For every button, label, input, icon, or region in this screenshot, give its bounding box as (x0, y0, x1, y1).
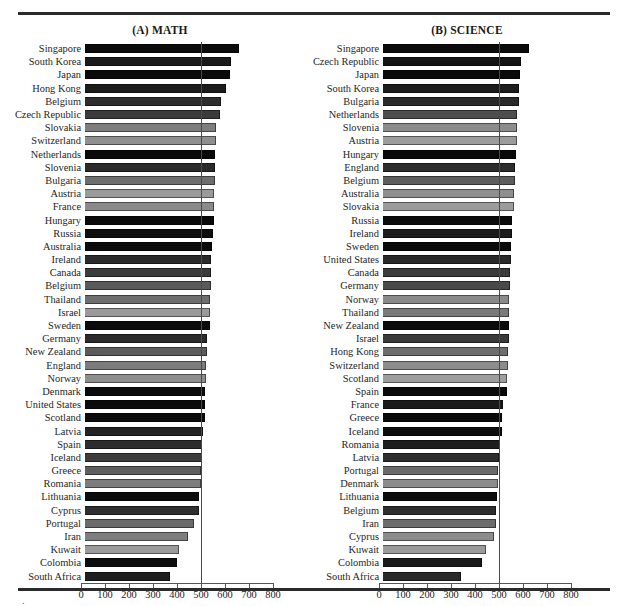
bar (85, 229, 213, 238)
bar-row-label: New Zealand (300, 320, 383, 331)
bar-row: Spain (300, 385, 626, 398)
bar (383, 374, 507, 383)
bar-row: Russia (300, 213, 626, 226)
panel-math: (A) MATH SingaporeSouth KoreaJapanHong K… (0, 24, 310, 549)
bar-cell (383, 570, 626, 583)
bar-row-label: South Africa (300, 571, 383, 582)
axis-tick (273, 583, 274, 588)
bar-cell (85, 82, 310, 95)
bar-row: Kuwait (300, 543, 626, 556)
panel-math-plot: SingaporeSouth KoreaJapanHong KongBelgiu… (0, 42, 310, 549)
bar (383, 295, 509, 304)
bar (85, 176, 215, 185)
bar-row: Japan (0, 68, 310, 81)
bar-cell (85, 253, 310, 266)
bar-row-label: Latvia (0, 426, 85, 437)
bar-row: Czech Republic (300, 55, 626, 68)
bar-row: Cyprus (300, 530, 626, 543)
bar-row: New Zealand (300, 319, 626, 332)
bar-row-label: Norway (0, 373, 85, 384)
bar (85, 532, 188, 541)
bar-row: Austria (300, 134, 626, 147)
bar-cell (383, 134, 626, 147)
axis-tick (523, 583, 524, 588)
bar (383, 44, 529, 53)
bar-row-label: South Africa (0, 571, 85, 582)
bar-row-label: Scotland (0, 412, 85, 423)
axis-tick-label: 300 (145, 589, 161, 600)
bar-cell (85, 240, 310, 253)
bar (383, 413, 502, 422)
bar-cell (85, 293, 310, 306)
bar-cell (383, 95, 626, 108)
bar-row: France (0, 200, 310, 213)
bar-row-label: Russia (300, 215, 383, 226)
bar-row-label: Austria (300, 135, 383, 146)
bar (85, 427, 203, 436)
bar-cell (85, 95, 310, 108)
axis-tick-label: 800 (265, 589, 281, 600)
bar-cell (85, 266, 310, 279)
bar-row: Singapore (0, 42, 310, 55)
bar (85, 387, 205, 396)
bar-row: Romania (0, 477, 310, 490)
bar-cell (383, 82, 626, 95)
bar-row-label: Romania (300, 439, 383, 450)
bar-row-label: Hungary (300, 149, 383, 160)
bar (383, 492, 497, 501)
axis-tick-label: 0 (376, 589, 381, 600)
bar-row: Lithuania (0, 490, 310, 503)
bar-cell (85, 345, 310, 358)
bar-row-label: Portugal (0, 518, 85, 529)
bar (383, 57, 521, 66)
bar-row-label: Belgium (0, 280, 85, 291)
bar (85, 519, 194, 528)
bar-row-label: Germany (0, 333, 85, 344)
bar-cell (85, 161, 310, 174)
bar (383, 347, 508, 356)
bar (383, 136, 517, 145)
bar-row: Switzerland (300, 359, 626, 372)
axis-tick (249, 583, 250, 588)
bar-cell (383, 148, 626, 161)
bar-cell (383, 438, 626, 451)
bar (85, 374, 206, 383)
bar-row-label: Canada (300, 267, 383, 278)
bar (85, 295, 210, 304)
axis-tick-label: 200 (419, 589, 435, 600)
axis-tick (153, 583, 154, 588)
bar-cell (383, 200, 626, 213)
bar-row: Cyprus (0, 504, 310, 517)
bar-cell (85, 517, 310, 530)
bar (383, 176, 515, 185)
bar-cell (85, 490, 310, 503)
axis-tick-label: 800 (563, 589, 579, 600)
axis-tick-label: 500 (193, 589, 209, 600)
panel-science-title: (B) SCIENCE (300, 24, 626, 42)
bar-row: Iran (300, 517, 626, 530)
bar-cell (383, 504, 626, 517)
bar (383, 123, 517, 132)
panel-math-average-line (201, 42, 202, 584)
bar (383, 334, 509, 343)
bar-row-label: Bulgaria (300, 96, 383, 107)
bar-row-label: Cyprus (0, 505, 85, 516)
bar-row: Thailand (0, 293, 310, 306)
panel-math-rows: SingaporeSouth KoreaJapanHong KongBelgiu… (0, 42, 310, 583)
bar-row-label: Belgium (0, 96, 85, 107)
bar-row-label: Czech Republic (0, 109, 85, 120)
bar-row: Czech Republic (0, 108, 310, 121)
panel-science-rows: SingaporeCzech RepublicJapanSouth KoreaB… (300, 42, 626, 583)
axis-tick-label: 600 (515, 589, 531, 600)
bar (383, 242, 511, 251)
axis-tick (475, 583, 476, 588)
bar (85, 545, 179, 554)
axis-tick-label: 200 (121, 589, 137, 600)
bar-cell (383, 279, 626, 292)
bar-row: Belgium (300, 174, 626, 187)
footnote-mark: . (22, 595, 25, 606)
bar-row-label: Portugal (300, 465, 383, 476)
bar-cell (383, 55, 626, 68)
axis-tick (403, 583, 404, 588)
bar-row-label: Iceland (300, 426, 383, 437)
